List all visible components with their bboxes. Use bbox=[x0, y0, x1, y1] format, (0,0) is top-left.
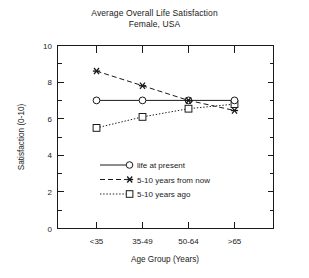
y-tick-label-4: 4 bbox=[48, 151, 53, 160]
x-tick-label-under35: <35 bbox=[90, 237, 104, 246]
data-point-ago-50-64 bbox=[185, 105, 192, 112]
data-point-present-35-49 bbox=[139, 97, 146, 104]
chart-figure: Average Overall Life Satisfaction Female… bbox=[0, 0, 309, 278]
x-axis-title: Age Group (Years) bbox=[131, 255, 199, 264]
y-tick-label-8: 8 bbox=[48, 78, 53, 87]
chart-plot-area: 10 8 6 4 2 0 <35 35-49 50-64 >65 Age Gro… bbox=[0, 0, 309, 278]
y-axis-title: Satisfaction (0-10) bbox=[17, 104, 26, 171]
plot-frame bbox=[58, 46, 274, 229]
data-point-future-over65 bbox=[231, 107, 238, 113]
x-tick-label-50-64: 50-64 bbox=[178, 237, 199, 246]
x-tick-label-over65: >65 bbox=[228, 237, 242, 246]
data-point-future-35-49 bbox=[139, 83, 146, 89]
y-tick-label-6: 6 bbox=[48, 115, 53, 124]
y-axis-right-ticks bbox=[268, 46, 274, 211]
data-point-ago-under35 bbox=[93, 125, 100, 132]
y-tick-label-10: 10 bbox=[43, 42, 52, 51]
x-axis-ticks bbox=[97, 46, 235, 229]
legend-item-5-10-years-from-now[interactable]: 5-10 years from now bbox=[100, 176, 210, 185]
series-5-10-years-from-now bbox=[93, 68, 238, 114]
legend-label-5-10-years-ago: 5-10 years ago bbox=[137, 190, 191, 199]
legend-marker-circle-icon bbox=[126, 162, 133, 169]
chart-legend: life at present 5-10 years from now 5-10… bbox=[100, 161, 210, 199]
legend-marker-star-icon bbox=[126, 177, 133, 183]
data-point-ago-35-49 bbox=[139, 114, 146, 121]
series-life-at-present bbox=[93, 97, 238, 104]
y-axis-minor-ticks bbox=[58, 64, 62, 210]
legend-marker-square-icon bbox=[126, 191, 133, 198]
data-point-future-under35 bbox=[93, 68, 100, 74]
legend-item-life-at-present[interactable]: life at present bbox=[100, 161, 186, 170]
y-tick-label-0: 0 bbox=[48, 225, 53, 234]
x-tick-label-35-49: 35-49 bbox=[132, 237, 153, 246]
data-point-present-over65 bbox=[231, 97, 238, 104]
data-point-present-under35 bbox=[93, 97, 100, 104]
legend-item-5-10-years-ago[interactable]: 5-10 years ago bbox=[100, 190, 191, 199]
series-5-10-years-ago bbox=[93, 101, 238, 132]
legend-label-life-at-present: life at present bbox=[137, 161, 186, 170]
legend-label-5-10-years-from-now: 5-10 years from now bbox=[137, 176, 210, 185]
y-tick-label-2: 2 bbox=[48, 188, 53, 197]
